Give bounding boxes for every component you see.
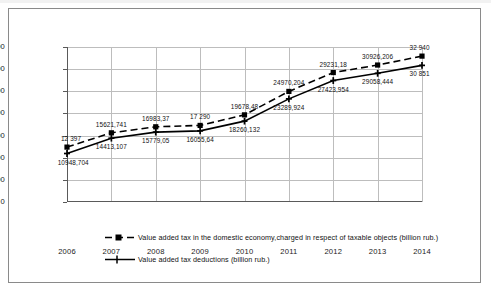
x-tick-label: 2006	[58, 247, 76, 256]
data-label: 17 290	[190, 113, 210, 120]
data-label: 30926,206	[362, 53, 393, 60]
scan-artifact	[0, 0, 491, 3]
y-tick-label: 10 000	[0, 153, 5, 162]
data-point-marker	[419, 54, 424, 59]
legend-label-1: Value added tax deductions (billion rub.…	[138, 255, 270, 264]
plot-area: 05 00010 00015 00020 00025 00030 00035 0…	[67, 47, 422, 202]
data-label: 15779,05	[142, 137, 169, 144]
chart-legend: Value added tax in the domestic economy,…	[105, 233, 435, 277]
data-label: 29058,444	[362, 78, 393, 85]
data-label: 12 397	[61, 135, 81, 142]
data-label: 19678,48	[231, 103, 258, 110]
data-label: 15621,741	[96, 121, 127, 128]
legend-item-1: Value added tax deductions (billion rub.…	[105, 255, 435, 264]
data-label: 30 851	[410, 70, 430, 77]
y-tick-label: 5 000	[0, 175, 5, 184]
y-tick-label: 25 000	[0, 86, 5, 95]
data-point-marker	[198, 123, 203, 128]
data-label: 23289,924	[273, 104, 304, 111]
data-label: 24970,204	[273, 79, 304, 86]
chart-figure: 05 00010 00015 00020 00025 00030 00035 0…	[0, 0, 491, 292]
legend-label-0: Value added tax in the domestic economy,…	[138, 233, 438, 242]
data-point-marker	[331, 70, 336, 75]
data-point-marker	[153, 124, 158, 129]
data-label: 29231,18	[320, 61, 347, 68]
y-tick-label: 20 000	[0, 108, 5, 117]
chart-frame: 05 00010 00015 00020 00025 00030 00035 0…	[8, 8, 481, 283]
data-label: 27423,954	[318, 86, 349, 93]
data-label: 18260,132	[229, 126, 260, 133]
data-point-marker	[375, 62, 380, 67]
data-label: 16983,37	[142, 115, 169, 122]
y-tick-label: 35 000	[0, 42, 5, 51]
legend-item-0: Value added tax in the domestic economy,…	[105, 233, 435, 242]
y-tick-label: 15 000	[0, 131, 5, 140]
series-dashed-line	[67, 56, 422, 147]
data-point-marker	[242, 112, 247, 117]
data-point-marker	[109, 130, 114, 135]
data-point-marker	[286, 89, 291, 94]
y-tick-label: 0	[1, 197, 5, 206]
y-tick-label: 30 000	[0, 64, 5, 73]
data-label: 10948,704	[58, 159, 89, 166]
data-label: 32 940	[410, 44, 430, 51]
y-tick-mark	[63, 202, 67, 203]
legend-swatch-solid	[105, 255, 135, 264]
data-label: 14413,107	[96, 143, 127, 150]
data-point-marker	[64, 145, 69, 150]
legend-swatch-dashed	[105, 233, 135, 242]
data-label: 16055,64	[186, 136, 213, 143]
series-dashed-markers	[64, 54, 424, 150]
